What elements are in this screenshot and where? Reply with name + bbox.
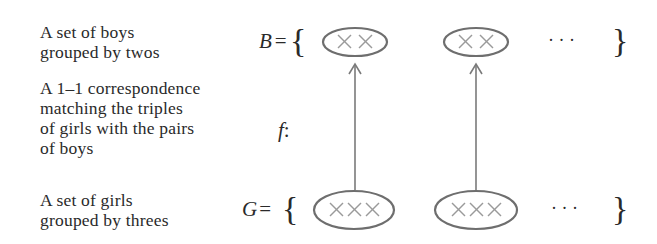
cross-icon (330, 203, 379, 216)
cross-icon (338, 35, 372, 48)
boys-group-1 (323, 28, 387, 56)
arrow-up-icon (349, 64, 361, 190)
girls-group-1 (314, 191, 394, 229)
girls-group-2 (435, 191, 517, 229)
cross-icon (452, 203, 501, 216)
cross-icon (459, 35, 493, 48)
boys-group-2 (444, 28, 508, 56)
arrow-up-icon (470, 64, 482, 190)
correspondence-diagram (0, 0, 657, 244)
